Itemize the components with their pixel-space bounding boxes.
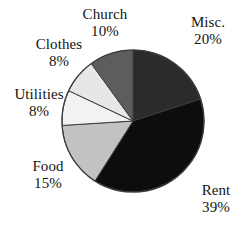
pie-label-church: Church 10%	[72, 6, 138, 40]
pie-label-rent: Rent 39%	[192, 182, 240, 216]
pie-label-utilities-percent: 8%	[6, 103, 72, 120]
pie-label-food-name: Food	[22, 158, 74, 175]
pie-label-church-name: Church	[72, 6, 138, 23]
pie-label-clothes: Clothes 8%	[28, 36, 90, 70]
pie-label-misc-name: Misc.	[180, 14, 236, 31]
pie-label-utilities-name: Utilities	[6, 86, 72, 103]
pie-label-food: Food 15%	[22, 158, 74, 192]
pie-label-utilities: Utilities 8%	[6, 86, 72, 120]
pie-label-misc: Misc. 20%	[180, 14, 236, 48]
pie-label-clothes-percent: 8%	[28, 53, 90, 70]
pie-label-food-percent: 15%	[22, 175, 74, 192]
pie-slices-group	[62, 50, 204, 192]
pie-label-church-percent: 10%	[72, 23, 138, 40]
pie-label-rent-name: Rent	[192, 182, 240, 199]
pie-label-rent-percent: 39%	[192, 199, 240, 216]
pie-label-misc-percent: 20%	[180, 31, 236, 48]
pie-chart-figure: Misc. 20% Rent 39% Food 15% Utilities 8%…	[0, 0, 245, 226]
